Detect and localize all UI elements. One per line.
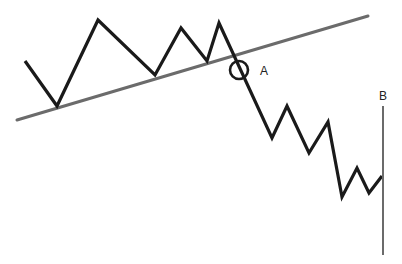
trendline bbox=[17, 16, 368, 120]
trendline-break-diagram: A B bbox=[0, 0, 402, 264]
label-b: B bbox=[379, 89, 387, 103]
diagram-canvas: A B bbox=[0, 0, 402, 264]
label-a: A bbox=[260, 64, 268, 78]
price-line bbox=[25, 20, 382, 197]
